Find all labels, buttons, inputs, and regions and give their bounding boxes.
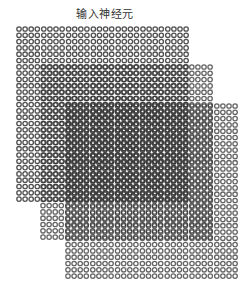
neuron bbox=[159, 261, 163, 265]
neuron bbox=[134, 52, 138, 56]
neuron bbox=[221, 110, 225, 114]
neuron bbox=[35, 58, 39, 62]
neuron bbox=[110, 58, 114, 62]
neuron bbox=[97, 27, 101, 31]
neuron bbox=[128, 261, 132, 265]
neuron bbox=[29, 46, 33, 50]
neuron bbox=[159, 58, 163, 62]
neuron bbox=[141, 46, 145, 50]
neuron bbox=[91, 242, 95, 246]
neuron bbox=[221, 249, 225, 253]
neuron bbox=[134, 249, 138, 253]
neuron bbox=[165, 268, 169, 272]
neuron bbox=[233, 198, 237, 202]
neuron bbox=[166, 58, 170, 62]
neuron bbox=[202, 274, 206, 278]
neuron bbox=[35, 52, 39, 56]
neuron bbox=[215, 179, 219, 183]
neuron bbox=[128, 58, 132, 62]
neuron bbox=[79, 58, 83, 62]
neuron bbox=[208, 261, 212, 265]
neuron bbox=[41, 235, 45, 239]
neuron bbox=[109, 261, 113, 265]
neuron bbox=[152, 274, 156, 278]
neuron bbox=[23, 128, 27, 132]
neuron bbox=[66, 268, 70, 272]
neuron bbox=[66, 58, 70, 62]
neuron bbox=[184, 46, 188, 50]
neuron bbox=[53, 210, 57, 214]
neuron bbox=[84, 274, 88, 278]
neuron bbox=[66, 52, 70, 56]
neuron bbox=[23, 159, 27, 163]
neuron bbox=[53, 216, 57, 220]
neuron bbox=[23, 58, 27, 62]
neuron bbox=[122, 242, 126, 246]
neuron bbox=[17, 65, 21, 69]
neuron bbox=[208, 77, 212, 81]
neuron bbox=[115, 255, 119, 259]
neuron bbox=[215, 230, 219, 234]
neuron bbox=[178, 58, 182, 62]
neuron bbox=[159, 249, 163, 253]
neuron bbox=[140, 274, 144, 278]
neuron bbox=[227, 135, 231, 139]
neuron bbox=[78, 249, 82, 253]
neuron bbox=[141, 27, 145, 31]
neuron bbox=[233, 192, 237, 196]
neuron bbox=[134, 46, 138, 50]
neuron bbox=[172, 27, 176, 31]
neuron bbox=[221, 116, 225, 120]
neuron bbox=[221, 186, 225, 190]
neuron bbox=[29, 121, 33, 125]
neuron bbox=[97, 52, 101, 56]
neuron bbox=[84, 242, 88, 246]
neuron bbox=[153, 33, 157, 37]
neuron bbox=[72, 242, 76, 246]
neuron bbox=[115, 249, 119, 253]
neuron bbox=[208, 96, 212, 100]
neuron bbox=[227, 224, 231, 228]
neuron bbox=[122, 274, 126, 278]
neuron bbox=[165, 242, 169, 246]
neuron bbox=[23, 102, 27, 106]
neuron bbox=[122, 46, 126, 50]
neuron bbox=[97, 242, 101, 246]
neuron bbox=[23, 52, 27, 56]
neuron bbox=[146, 249, 150, 253]
neuron bbox=[128, 33, 132, 37]
neuron-layers bbox=[0, 0, 244, 290]
neuron bbox=[233, 123, 237, 127]
neuron bbox=[73, 39, 77, 43]
neuron bbox=[103, 242, 107, 246]
neuron bbox=[152, 242, 156, 246]
neuron bbox=[41, 210, 45, 214]
neuron bbox=[221, 148, 225, 152]
neuron bbox=[153, 39, 157, 43]
neuron bbox=[165, 261, 169, 265]
neuron bbox=[97, 274, 101, 278]
neuron bbox=[29, 27, 33, 31]
neuron bbox=[215, 198, 219, 202]
neuron bbox=[109, 242, 113, 246]
neuron bbox=[215, 274, 219, 278]
neuron bbox=[42, 58, 46, 62]
neuron bbox=[227, 242, 231, 246]
neuron bbox=[66, 46, 70, 50]
neuron bbox=[17, 165, 21, 169]
neuron bbox=[172, 39, 176, 43]
neuron bbox=[35, 184, 39, 188]
neuron bbox=[35, 27, 39, 31]
neuron bbox=[35, 115, 39, 119]
neuron bbox=[165, 255, 169, 259]
neuron bbox=[147, 33, 151, 37]
neuron bbox=[23, 197, 27, 201]
neuron bbox=[215, 135, 219, 139]
neuron bbox=[208, 255, 212, 259]
neuron bbox=[72, 268, 76, 272]
neuron bbox=[227, 268, 231, 272]
neuron bbox=[134, 274, 138, 278]
neuron bbox=[146, 261, 150, 265]
neuron bbox=[47, 210, 51, 214]
neuron bbox=[177, 249, 181, 253]
